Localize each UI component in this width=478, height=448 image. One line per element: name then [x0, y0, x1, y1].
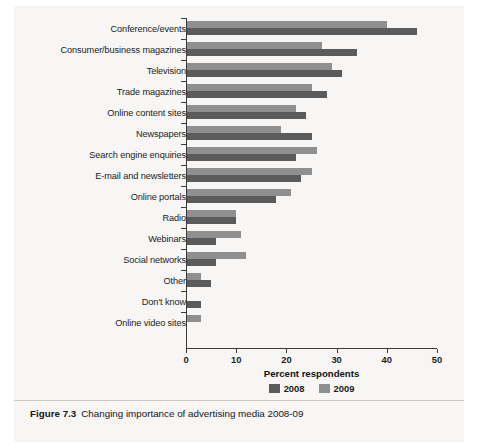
x-axis-line: [186, 348, 437, 349]
bar-2009: [186, 147, 317, 154]
figure-caption-text: Changing importance of advertising media…: [81, 408, 303, 419]
category-label: Radio: [162, 213, 186, 223]
category-label: Trade magazines: [117, 87, 186, 97]
bar-2008: [186, 238, 216, 245]
bar-2008: [186, 301, 201, 308]
category-label: Other: [164, 276, 186, 286]
legend-swatch-icon: [269, 384, 280, 393]
category-label: Television: [147, 66, 186, 76]
y-axis-line: [186, 18, 187, 349]
chart-row: Consumer/business magazines: [0, 39, 478, 60]
category-label: Consumer/business magazines: [61, 45, 186, 55]
bar-2009: [186, 21, 387, 28]
category-label: Newspapers: [136, 129, 186, 139]
category-label: Online portals: [131, 192, 186, 202]
chart-row: Television: [0, 60, 478, 81]
chart-row: Trade magazines: [0, 81, 478, 102]
caption-divider: [14, 400, 464, 401]
bar-2009: [186, 105, 296, 112]
bar-group: [186, 270, 476, 291]
legend-swatch-icon: [319, 384, 330, 393]
x-axis-tick: [437, 349, 438, 353]
chart-row: Conference/events: [0, 18, 478, 39]
chart-row: Social networks: [0, 249, 478, 270]
x-axis-tick-label: 20: [281, 354, 291, 365]
chart-row: Newspapers: [0, 123, 478, 144]
bar-2008: [186, 49, 357, 56]
bar-2009: [186, 84, 312, 91]
bar-group: [186, 228, 476, 249]
x-axis-tick: [236, 349, 237, 353]
bar-2008: [186, 28, 417, 35]
x-axis-tick: [337, 349, 338, 353]
bar-group: [186, 312, 476, 333]
x-axis-title: Percent respondents: [186, 368, 437, 379]
x-axis-tick: [387, 349, 388, 353]
bar-group: [186, 60, 476, 81]
chart-row: Webinars: [0, 228, 478, 249]
bar-group: [186, 186, 476, 207]
x-axis-tick-label: 0: [183, 354, 188, 365]
chart-row: Radio: [0, 207, 478, 228]
bar-group: [186, 207, 476, 228]
bar-2008: [186, 133, 312, 140]
bar-2008: [186, 112, 306, 119]
chart-row: Search engine enquiries: [0, 144, 478, 165]
chart-row: Online video sites: [0, 312, 478, 333]
bar-2008: [186, 280, 211, 287]
x-axis-tick-label: 10: [231, 354, 241, 365]
bar-group: [186, 39, 476, 60]
chart-legend: 20082009: [186, 383, 437, 394]
bar-2009: [186, 126, 281, 133]
bar-group: [186, 81, 476, 102]
x-axis-tick-label: 30: [331, 354, 341, 365]
bar-2009: [186, 210, 236, 217]
figure-caption-label: Figure 7.3: [30, 408, 76, 419]
category-label: Online content sites: [107, 108, 186, 118]
chart-row: Online content sites: [0, 102, 478, 123]
bar-2009: [186, 231, 241, 238]
legend-item-2009: 2009: [319, 383, 355, 394]
bar-group: [186, 249, 476, 270]
category-label: Webinars: [148, 234, 186, 244]
category-label: E-mail and newsletters: [95, 171, 186, 181]
bar-group: [186, 291, 476, 312]
bar-2008: [186, 259, 216, 266]
bar-2008: [186, 196, 276, 203]
bar-2009: [186, 273, 201, 280]
chart-row: Don't know: [0, 291, 478, 312]
bar-group: [186, 165, 476, 186]
bar-2008: [186, 154, 296, 161]
legend-item-2008: 2008: [269, 383, 305, 394]
bar-2008: [186, 175, 301, 182]
bar-2009: [186, 315, 201, 322]
category-label: Online video sites: [115, 318, 186, 328]
bar-group: [186, 123, 476, 144]
x-axis-tick: [186, 349, 187, 353]
bar-2008: [186, 70, 342, 77]
bar-2009: [186, 189, 291, 196]
x-axis-tick: [286, 349, 287, 353]
bar-2008: [186, 91, 327, 98]
chart-row: E-mail and newsletters: [0, 165, 478, 186]
bar-2009: [186, 252, 246, 259]
category-label: Conference/events: [111, 24, 186, 34]
chart-plot-area: Conference/eventsConsumer/business magaz…: [0, 18, 478, 348]
legend-label: 2008: [284, 383, 305, 394]
bar-2009: [186, 168, 312, 175]
bar-2009: [186, 63, 332, 70]
bar-2009: [186, 42, 322, 49]
category-label: Search engine enquiries: [89, 150, 186, 160]
figure-container: Conference/eventsConsumer/business magaz…: [0, 0, 478, 448]
bar-group: [186, 18, 476, 39]
legend-label: 2009: [334, 383, 355, 394]
bar-2008: [186, 217, 236, 224]
chart-row: Online portals: [0, 186, 478, 207]
x-axis-tick-label: 40: [382, 354, 392, 365]
category-label: Social networks: [123, 255, 186, 265]
chart-row: Other: [0, 270, 478, 291]
bar-group: [186, 144, 476, 165]
category-label: Don't know: [142, 297, 186, 307]
x-axis-tick-label: 50: [432, 354, 442, 365]
bar-group: [186, 102, 476, 123]
